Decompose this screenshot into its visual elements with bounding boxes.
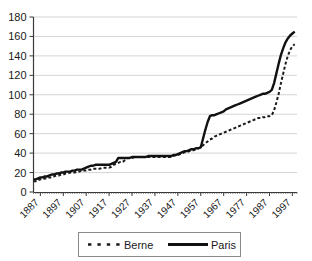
y-tick-label: 80 xyxy=(14,108,26,120)
y-tick-label: 100 xyxy=(8,89,26,101)
line-chart: 020406080100120140160180 188718971907191… xyxy=(0,0,312,261)
y-tick-label: 140 xyxy=(8,50,26,62)
y-tick-label: 0 xyxy=(20,186,26,198)
y-tick-label: 160 xyxy=(8,30,26,42)
legend-label-berne: Berne xyxy=(124,239,153,251)
chart-background xyxy=(0,0,312,261)
y-tick-label: 180 xyxy=(8,11,26,23)
chart-container: 020406080100120140160180 188718971907191… xyxy=(0,0,312,261)
y-tick-label: 60 xyxy=(14,128,26,140)
chart-legend: BerneParis xyxy=(79,233,241,257)
legend-label-paris: Paris xyxy=(211,239,237,251)
y-tick-label: 40 xyxy=(14,147,26,159)
y-tick-label: 120 xyxy=(8,69,26,81)
y-tick-label: 20 xyxy=(14,167,26,179)
